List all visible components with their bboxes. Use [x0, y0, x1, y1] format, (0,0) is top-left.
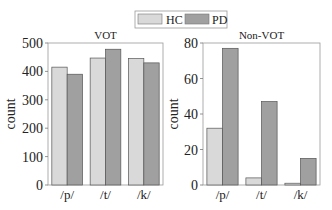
y-tick-label: 200	[22, 121, 43, 136]
y-tick-label: 100	[22, 150, 43, 165]
bar-hc-t	[246, 178, 262, 185]
y-tick-label: 400	[22, 64, 43, 79]
non-vot-panel: Non-VOT020406080count/p//t//k/	[166, 29, 320, 202]
vot-panel: VOT0100200300400500count/p//t//k/	[3, 29, 163, 202]
legend-swatch-pd	[185, 14, 209, 24]
x-tick-label: /p/	[60, 187, 74, 202]
y-axis-label: count	[3, 98, 18, 129]
bar-hc-t	[90, 58, 105, 185]
bar-hc-k	[129, 59, 144, 185]
y-tick-label: 20	[184, 143, 198, 158]
bar-pd-k	[144, 63, 159, 185]
y-tick-label: 500	[22, 36, 43, 51]
y-tick-label: 0	[191, 178, 198, 193]
y-tick-label: 0	[36, 178, 43, 193]
y-tick-label: 40	[184, 107, 198, 122]
x-tick-label: /k/	[137, 187, 151, 202]
bar-pd-t	[106, 49, 121, 185]
y-tick-label: 80	[184, 36, 198, 51]
chart-title: VOT	[94, 29, 117, 41]
bar-pd-t	[262, 102, 278, 185]
bar-hc-p	[52, 67, 67, 185]
bar-hc-k	[285, 183, 301, 185]
x-tick-label: /p/	[216, 187, 230, 202]
legend-label-pd: PD	[212, 13, 228, 27]
bar-pd-k	[301, 158, 317, 185]
x-tick-label: /k/	[294, 187, 308, 202]
legend-label-hc: HC	[166, 13, 183, 27]
bar-pd-p	[223, 48, 239, 185]
legend: HC PD	[135, 11, 228, 28]
y-axis-label: count	[166, 98, 181, 129]
x-tick-label: /t/	[256, 187, 267, 202]
y-tick-label: 60	[184, 72, 198, 87]
bar-hc-p	[207, 128, 223, 185]
chart-title: Non-VOT	[239, 29, 284, 41]
y-tick-label: 300	[22, 93, 43, 108]
x-tick-label: /t/	[100, 187, 111, 202]
bar-pd-p	[67, 74, 82, 185]
figure: HC PD VOT0100200300400500count/p//t//k/ …	[0, 0, 332, 210]
legend-swatch-hc	[138, 14, 162, 24]
